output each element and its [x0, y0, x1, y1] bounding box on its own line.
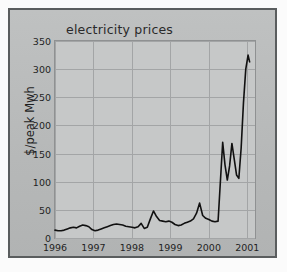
y-tick-label: 200	[33, 120, 51, 131]
y-tick-label: 100	[33, 176, 51, 187]
y-tick-label: 350	[33, 36, 51, 47]
y-tick-label: 300	[33, 64, 51, 75]
x-tick-label: 1996	[43, 242, 67, 253]
data-series-line	[55, 41, 255, 238]
x-tick-label: 2001	[235, 242, 259, 253]
x-tick-label: 1998	[120, 242, 144, 253]
plot-area: 050100150200250300350 199619971998199920…	[54, 40, 256, 239]
figure: electricity prices $/peak Mwh 0501001502…	[0, 0, 287, 272]
x-tick-label: 1997	[81, 242, 105, 253]
chart-panel: electricity prices $/peak Mwh 0501001502…	[8, 8, 277, 258]
chart-title: electricity prices	[66, 22, 173, 37]
y-tick-label: 250	[33, 92, 51, 103]
y-tick-label: 50	[39, 204, 51, 215]
price-line	[55, 55, 250, 231]
x-tick-label: 2000	[197, 242, 221, 253]
y-tick-label: 150	[33, 148, 51, 159]
x-tick-label: 1999	[158, 242, 182, 253]
gridline-y-0	[55, 238, 255, 239]
